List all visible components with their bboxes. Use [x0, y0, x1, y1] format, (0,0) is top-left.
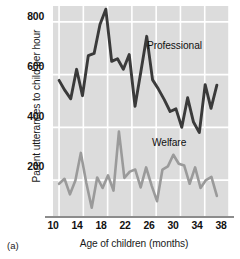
- figure-panel: Parent utterances to child per hour 800 …: [0, 0, 240, 259]
- panel-tag: (a): [7, 240, 19, 251]
- y-tick-600: 600: [0, 61, 44, 72]
- y-axis-label: Parent utterances to child per hour: [30, 9, 44, 204]
- plot-area: [53, 6, 229, 217]
- x-tick-34: 34: [184, 220, 210, 231]
- x-tick-14: 14: [64, 220, 90, 231]
- x-tick-26: 26: [136, 220, 162, 231]
- x-tick-38: 38: [208, 220, 234, 231]
- series-label-welfare: Welfare: [152, 137, 186, 148]
- x-tick-18: 18: [88, 220, 114, 231]
- series-label-professional: Professional: [147, 40, 202, 51]
- y-tick-200: 200: [0, 161, 44, 172]
- x-tick-10: 10: [40, 220, 66, 231]
- y-tick-800: 800: [0, 11, 44, 22]
- x-axis-label: Age of children (months): [36, 238, 232, 249]
- chart-canvas: [53, 6, 229, 217]
- x-tick-30: 30: [160, 220, 186, 231]
- x-axis-line: [45, 216, 234, 218]
- x-tick-22: 22: [112, 220, 138, 231]
- y-tick-400: 400: [0, 111, 44, 122]
